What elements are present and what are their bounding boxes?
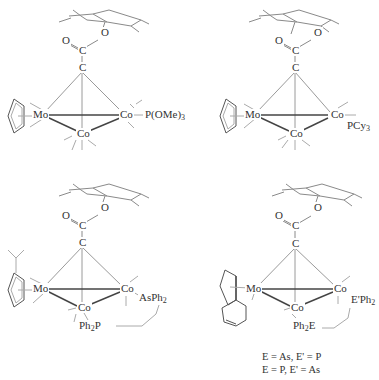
caption: E = As, E' = P E = P, E' = As	[262, 350, 321, 376]
ester-oxygen: O	[313, 202, 323, 213]
molybdenum-atom: Mo	[244, 109, 261, 120]
carbonyl-carbon: C	[78, 220, 87, 231]
carbonyl-carbon: C	[291, 220, 300, 231]
carbonyl-oxygen: O	[274, 35, 284, 46]
alkyne-carbon: C	[78, 237, 87, 248]
arsine-ligand: AsPh2	[138, 292, 168, 305]
carbonyl-oxygen: O	[274, 210, 284, 221]
structure-drawing	[0, 0, 379, 380]
ester-oxygen: O	[100, 27, 110, 38]
cobalt-atom-bottom: Co	[289, 128, 304, 139]
molybdenum-atom: Mo	[245, 283, 262, 294]
structure-2	[220, 10, 356, 150]
carbonyl-carbon: C	[291, 45, 300, 56]
cobalt-atom-right: Co	[330, 109, 345, 120]
alkyne-carbon: C	[291, 62, 300, 73]
cobalt-atom-bottom: Co	[290, 302, 305, 313]
carbonyl-oxygen: O	[61, 35, 71, 46]
carbonyl-oxygen: O	[61, 210, 71, 221]
caption-line-2: E = P, E' = As	[262, 363, 321, 376]
cobalt-atom-bottom: Co	[76, 128, 91, 139]
ester-oxygen: O	[100, 202, 110, 213]
e-prime-ligand: E'Ph2	[350, 294, 376, 307]
carbonyl-carbon: C	[78, 45, 87, 56]
cobalt-atom-bottom: Co	[77, 302, 92, 313]
ester-oxygen: O	[313, 27, 323, 38]
e-ligand: Ph2E	[292, 320, 316, 333]
phosphine-ligand: PCy3	[346, 120, 371, 133]
phosphine-ligand: Ph2P	[78, 320, 102, 333]
molybdenum-atom: Mo	[32, 109, 49, 120]
cobalt-atom-right: Co	[119, 109, 134, 120]
molybdenum-atom: Mo	[32, 283, 49, 294]
cobalt-atom-right: Co	[333, 283, 348, 294]
phosphite-ligand: P(OMe)3	[144, 109, 186, 122]
alkyne-carbon: C	[78, 62, 87, 73]
alkyne-carbon: C	[291, 238, 300, 249]
caption-line-1: E = As, E' = P	[262, 350, 321, 363]
cobalt-atom-right: Co	[120, 283, 135, 294]
